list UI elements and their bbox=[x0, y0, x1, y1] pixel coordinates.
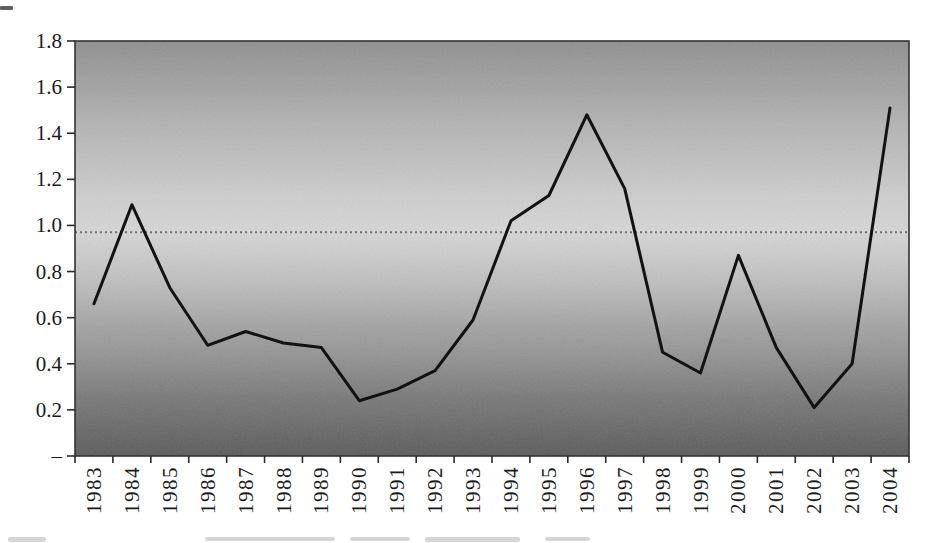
cropped-caption-fragment bbox=[350, 537, 410, 541]
y-axis-label: – bbox=[51, 444, 63, 468]
x-axis-label: 1993 bbox=[461, 466, 485, 514]
x-axis-label: 1990 bbox=[347, 466, 371, 514]
cropped-caption-fragment bbox=[8, 537, 46, 542]
x-axis-label: 1987 bbox=[234, 466, 258, 514]
scan-corner-mark bbox=[0, 6, 13, 10]
cropped-caption-fragment bbox=[425, 537, 520, 542]
x-axis-label: 1998 bbox=[651, 466, 675, 514]
x-axis-label: 1985 bbox=[158, 466, 182, 514]
x-axis-label: 1997 bbox=[613, 466, 637, 514]
x-axis-label: 2001 bbox=[764, 466, 788, 514]
y-axis-label: 1.8 bbox=[36, 29, 62, 53]
x-axis-label: 1986 bbox=[196, 466, 220, 514]
x-axis-label: 1999 bbox=[689, 466, 713, 514]
y-axis-label: 0.6 bbox=[36, 306, 62, 330]
y-axis-label: 0.4 bbox=[36, 352, 63, 376]
x-axis-label: 1988 bbox=[272, 466, 296, 514]
cropped-caption-fragment bbox=[545, 537, 590, 541]
x-axis-label: 1992 bbox=[423, 466, 447, 514]
y-axis-label: 1.4 bbox=[36, 121, 63, 145]
x-axis-label: 1991 bbox=[385, 466, 409, 514]
y-axis-label: 1.0 bbox=[36, 213, 62, 237]
y-axis-label: 1.6 bbox=[36, 75, 62, 99]
x-axis-label: 1995 bbox=[537, 466, 561, 514]
scanned-line-chart-figure: 1.81.61.41.21.00.80.60.40.2–198319841985… bbox=[0, 0, 940, 543]
y-axis-label: 1.2 bbox=[36, 167, 62, 191]
x-axis-label: 1989 bbox=[309, 466, 333, 514]
x-axis-label: 1996 bbox=[575, 466, 599, 514]
chart-svg: 1.81.61.41.21.00.80.60.40.2–198319841985… bbox=[0, 0, 940, 543]
x-axis-label: 2004 bbox=[878, 466, 902, 514]
x-axis-label: 2003 bbox=[840, 466, 864, 514]
x-axis-label: 2000 bbox=[726, 466, 750, 514]
x-axis-label: 1984 bbox=[120, 466, 144, 514]
x-axis-label: 1994 bbox=[499, 466, 523, 514]
x-axis-label: 2002 bbox=[802, 466, 826, 514]
y-axis-label: 0.2 bbox=[36, 398, 62, 422]
scan-noise-overlay bbox=[75, 41, 909, 456]
y-axis-label: 0.8 bbox=[36, 260, 62, 284]
cropped-caption-fragment bbox=[205, 537, 335, 541]
x-axis-label: 1983 bbox=[82, 466, 106, 514]
